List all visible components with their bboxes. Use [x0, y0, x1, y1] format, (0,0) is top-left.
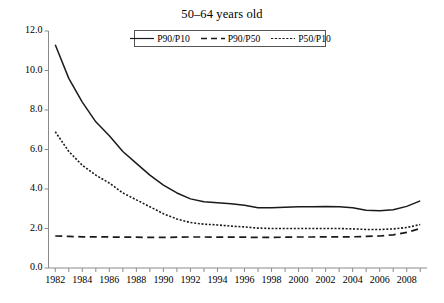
x-axis-tick-label: 2008 — [390, 274, 424, 285]
series-line-p90-p10 — [55, 45, 420, 211]
y-axis-tick-label: 8.0 — [9, 103, 43, 114]
y-axis-tick-label: 2.0 — [9, 222, 43, 233]
y-axis-tick-label: 6.0 — [9, 143, 43, 154]
y-axis-tick-label: 0.0 — [9, 261, 43, 272]
series-line-p50-p10 — [55, 132, 420, 230]
y-axis-tick-label: 12.0 — [9, 24, 43, 35]
y-axis-tick-label: 4.0 — [9, 182, 43, 193]
plot-area — [0, 0, 444, 303]
y-axis-tick-label: 10.0 — [9, 64, 43, 75]
chart-container: 50–64 years old P90/P10 P90/P50 P50/P10 … — [0, 0, 444, 303]
